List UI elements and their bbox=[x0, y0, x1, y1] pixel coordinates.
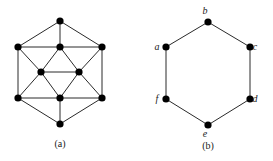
vertex-a bbox=[162, 43, 169, 50]
graph-edge bbox=[208, 22, 250, 47]
graph-vertex bbox=[14, 43, 21, 50]
graph-diagram: (a) abcdef (b) bbox=[0, 0, 273, 161]
vertex-label-a: a bbox=[155, 41, 160, 52]
graph-vertex bbox=[56, 94, 63, 101]
graph-edge bbox=[208, 99, 250, 125]
graph-vertex bbox=[37, 68, 44, 75]
graph-edge bbox=[60, 21, 102, 47]
vertex-label-e: e bbox=[203, 128, 208, 139]
graph-b-nodes bbox=[162, 18, 253, 128]
vertex-f bbox=[162, 95, 169, 102]
graph-edge bbox=[18, 98, 60, 124]
graph-vertex bbox=[56, 120, 63, 127]
graph-a-icosahedron-like: (a) bbox=[14, 17, 105, 150]
caption-b: (b) bbox=[202, 140, 214, 152]
graph-vertex bbox=[98, 94, 105, 101]
vertex-label-b: b bbox=[203, 5, 208, 16]
graph-vertex bbox=[75, 68, 82, 75]
vertex-label-f: f bbox=[156, 93, 160, 104]
graph-edge bbox=[60, 47, 79, 72]
graph-vertex bbox=[14, 94, 21, 101]
graph-edge bbox=[166, 99, 208, 125]
graph-edge bbox=[60, 98, 102, 124]
graph-edge bbox=[18, 47, 41, 72]
graph-edge bbox=[79, 47, 102, 72]
graph-edge bbox=[41, 72, 60, 98]
graph-vertex bbox=[98, 43, 105, 50]
graph-edge bbox=[166, 22, 208, 47]
vertex-label-c: c bbox=[253, 41, 258, 52]
vertex-label-d: d bbox=[253, 93, 259, 104]
vertex-b bbox=[204, 18, 211, 25]
graph-edge bbox=[79, 72, 102, 98]
graph-vertex bbox=[56, 17, 63, 24]
caption-a: (a) bbox=[54, 138, 65, 150]
graph-edge bbox=[18, 21, 60, 47]
graph-a-edges bbox=[18, 21, 102, 124]
graph-vertex bbox=[56, 43, 63, 50]
graph-edge bbox=[60, 72, 79, 98]
graph-edge bbox=[41, 47, 60, 72]
graph-b-hexagon: abcdef (b) bbox=[155, 5, 259, 152]
graph-edge bbox=[18, 72, 41, 98]
graph-b-edges bbox=[166, 22, 250, 125]
